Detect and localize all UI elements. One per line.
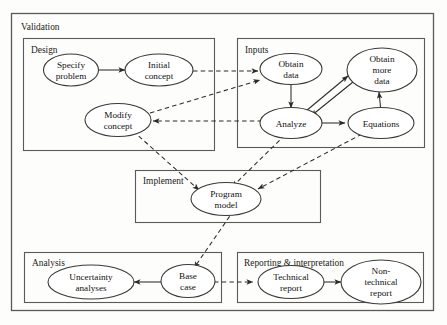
node-label-initial-concept-line1: Initial [148,60,170,70]
node-label-uncertainty-analyses-line1: Uncertainty [69,272,113,282]
diagram-canvas: Validation Design Inputs Implement Analy… [0,0,447,325]
node-label-technical-report-line1: Technical [273,272,309,282]
edge-analyze-to-obtain-more-data [306,76,348,111]
node-technical-report[interactable]: Technical report [258,266,324,299]
node-label-base-case-line2: case [180,282,196,292]
node-label-initial-concept-line2: concept [145,71,174,81]
node-obtain-more-data[interactable]: Obtain more data [347,48,417,92]
node-label-obtain-more-data-line2: more [373,65,392,75]
node-uncertainty-analyses[interactable]: Uncertainty analyses [48,265,134,299]
group-label-inputs: Inputs [245,45,269,55]
node-label-nontech-report-line1: Non- [372,266,391,276]
node-specify-problem[interactable]: Specify problem [44,54,99,86]
node-label-uncertainty-analyses-line2: analyses [75,283,107,293]
node-label-analyze: Analyze [276,119,307,129]
node-label-specify-problem-line2: problem [56,71,87,81]
node-label-base-case-line1: Base [179,271,197,281]
node-label-specify-problem-line1: Specify [57,60,85,70]
node-obtain-data[interactable]: Obtain data [260,54,322,85]
node-base-case[interactable]: Base case [161,265,215,298]
node-label-modify-concept-line2: concept [104,121,133,131]
node-initial-concept[interactable]: Initial concept [125,54,193,86]
flowchart-diagram: Validation Design Inputs Implement Analy… [0,0,447,325]
group-label-analysis: Analysis [32,258,65,268]
node-label-obtain-more-data-line1: Obtain [369,54,394,64]
edge-equations-to-program-model [258,134,362,189]
edge-program-model-to-base-case [194,210,234,268]
node-program-model[interactable]: Program model [191,183,261,216]
node-label-program-model-line1: Program [210,189,242,199]
node-label-obtain-data-line1: Obtain [278,59,303,69]
node-label-nontech-report-line2: technical [364,277,398,287]
node-label-equations: Equations [363,119,400,129]
edge-obtain-more-data-to-analyze [311,82,353,116]
node-label-modify-concept-line1: Modify [104,110,132,120]
group-label-validation: Validation [21,22,60,32]
group-label-implement: Implement [143,176,184,186]
node-label-technical-report-line2: report [280,283,302,293]
node-label-obtain-more-data-line3: data [374,76,389,86]
node-label-obtain-data-line2: data [283,70,298,80]
node-nontech-report[interactable]: Non- technical report [341,260,421,304]
group-label-design: Design [31,45,58,55]
node-label-program-model-line2: model [215,200,238,210]
node-label-nontech-report-line3: report [370,288,392,298]
node-modify-concept[interactable]: Modify concept [85,104,151,137]
node-equations[interactable]: Equations [348,108,414,139]
node-analyze[interactable]: Analyze [260,108,322,139]
